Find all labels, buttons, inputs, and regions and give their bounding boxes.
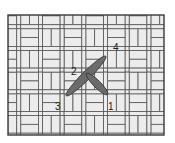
weave-brick <box>21 38 39 47</box>
weave-brick <box>125 29 129 47</box>
weave-brick <box>21 7 30 25</box>
weave-brick <box>82 94 86 112</box>
weave-brick <box>151 38 169 47</box>
weave-brick <box>147 50 151 68</box>
weave-brick <box>38 90 42 94</box>
weave-brick <box>60 116 64 134</box>
weave-brick <box>169 7 173 25</box>
weave-brick <box>125 112 129 116</box>
weave-brick <box>108 68 126 72</box>
weave-brick <box>0 137 17 143</box>
weave-brick <box>108 50 117 68</box>
weave-brick <box>82 29 86 47</box>
weave-brick <box>0 29 8 47</box>
weave-brick <box>169 3 173 7</box>
weave-brick <box>104 112 108 116</box>
weave-brick <box>64 3 82 7</box>
weave-brick <box>82 116 86 134</box>
weave-brick <box>125 50 129 68</box>
weave-brick <box>129 90 147 94</box>
weave-brick <box>30 7 39 25</box>
weave-brick <box>30 137 39 143</box>
weave-brick <box>104 116 108 134</box>
weave-brick <box>129 50 147 59</box>
weave-brick <box>138 29 147 47</box>
weave-brick <box>82 46 86 50</box>
weave-brick <box>173 94 175 103</box>
weave-brick <box>64 94 73 112</box>
weave-brick <box>151 94 160 112</box>
weave-brick <box>17 29 21 47</box>
weave-brick <box>108 7 117 25</box>
weave-brick <box>173 25 175 29</box>
weave-brick <box>125 90 129 94</box>
weave-brick <box>104 94 108 112</box>
weave-brick <box>151 68 169 72</box>
weave-brick <box>17 7 21 25</box>
weave-brick <box>151 25 169 29</box>
weave-brick <box>64 124 82 133</box>
weave-brick <box>95 116 104 134</box>
weave-brick <box>21 29 39 38</box>
weave-brick <box>0 72 8 90</box>
weave-brick <box>38 25 42 29</box>
weave-brick <box>173 3 175 7</box>
weave-brick <box>129 29 138 47</box>
weave-brick <box>151 29 169 38</box>
weave-brick <box>108 25 126 29</box>
weave-brick <box>169 116 173 134</box>
weave-brick <box>147 112 151 116</box>
weave-brick <box>147 46 151 50</box>
weave-brick <box>17 68 21 72</box>
weave-brick <box>151 3 169 7</box>
weave-brick <box>147 72 151 90</box>
weave-brick <box>64 38 82 47</box>
weave-brick <box>160 137 169 143</box>
weave-brick <box>129 59 147 68</box>
weave-brick <box>64 7 73 25</box>
weave-brick <box>116 50 125 68</box>
weave-brick <box>17 90 21 94</box>
weave-brick <box>60 72 64 90</box>
weave-brick <box>104 7 108 25</box>
weave-brick <box>82 3 86 7</box>
weave-brick <box>0 3 17 7</box>
weave-brick <box>173 112 175 116</box>
weave-brick <box>108 81 126 90</box>
weave-brick <box>129 16 147 25</box>
weave-brick <box>42 25 60 29</box>
weave-brick <box>151 90 169 94</box>
weave-brick <box>38 94 42 112</box>
weave-brick <box>64 25 82 29</box>
weave-brick <box>129 112 147 116</box>
weave-brick <box>173 59 175 68</box>
weave-brick <box>42 46 60 50</box>
weave-brick <box>60 29 64 47</box>
weave-brick <box>173 68 175 72</box>
weave-brick <box>21 94 30 112</box>
weave-brick <box>151 50 160 68</box>
weave-brick <box>125 72 129 90</box>
weave-brick <box>30 50 39 68</box>
weave-brick <box>38 29 42 47</box>
weave-brick <box>64 116 82 125</box>
weave-brick <box>147 25 151 29</box>
weave-brick <box>108 137 117 143</box>
weave-brick <box>86 25 104 29</box>
weave-brick <box>129 72 138 90</box>
weave-brick <box>169 137 173 143</box>
weave-brick <box>129 25 147 29</box>
weave-brick <box>104 68 108 72</box>
weave-brick <box>129 94 147 103</box>
weave-brick <box>104 25 108 29</box>
weave-brick <box>73 7 82 25</box>
weave-brick <box>60 90 64 94</box>
weave-brick <box>108 112 126 116</box>
weave-brick <box>108 90 126 94</box>
weave-brick <box>21 46 39 50</box>
weave-brick <box>60 137 64 143</box>
weave-brick <box>125 137 129 143</box>
weave-brick <box>151 7 160 25</box>
weave-brick <box>173 72 175 90</box>
weave-brick <box>108 124 126 133</box>
